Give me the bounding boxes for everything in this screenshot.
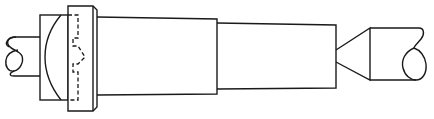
left-shaft-break <box>6 37 40 76</box>
flange <box>68 6 97 111</box>
cone-tip <box>336 28 370 80</box>
diagram-canvas: Shaft assembly with flanged coupling and… <box>0 0 434 119</box>
right-shaft-break <box>370 28 426 80</box>
hub <box>40 15 68 100</box>
main-body <box>97 17 217 95</box>
stepped-section <box>217 23 336 89</box>
